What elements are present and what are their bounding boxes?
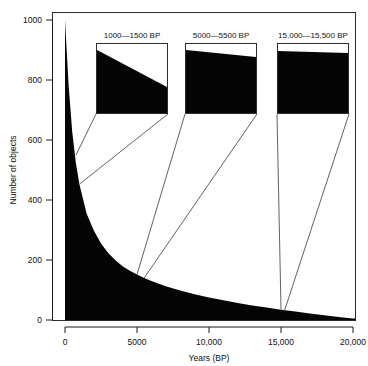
connector-inset-3-left <box>277 114 281 310</box>
y-ticklabel-1000: 1000 <box>23 15 42 25</box>
x-axis-title: Years (BP) <box>189 353 230 363</box>
x-ticklabel-20000: 20,000 <box>340 337 366 347</box>
connector-inset-1-right <box>79 114 168 184</box>
x-ticklabel-15000: 15,000 <box>268 337 294 347</box>
inset-2-fill <box>186 50 256 113</box>
inset-2: 5000—5500 BP <box>186 31 257 114</box>
inset-1-title: 1000—1500 BP <box>104 31 161 40</box>
inset-3-title: 15,000—15,500 BP <box>278 31 348 40</box>
y-axis-title: Number of objects <box>8 136 18 205</box>
x-ticklabel-5000: 5000 <box>128 337 147 347</box>
x-ticklabel-0: 0 <box>63 337 68 347</box>
inset-2-title: 5000—5500 BP <box>193 31 250 40</box>
inset-3: 15,000—15,500 BP <box>278 31 349 114</box>
chart-svg: 1000—1500 BP 5000—5500 BP 15,000—15,500 … <box>0 0 368 366</box>
y-ticklabel-200: 200 <box>28 255 42 265</box>
connector-inset-2-right <box>144 114 257 278</box>
connector-inset-1-left <box>76 114 96 155</box>
x-axis: 0 5000 10,000 15,000 20,000 Years (BP) <box>63 327 367 363</box>
y-axis: 1000 800 600 400 200 0 Number of objects <box>8 15 53 325</box>
y-ticklabel-400: 400 <box>28 195 42 205</box>
chart-figure: 1000—1500 BP 5000—5500 BP 15,000—15,500 … <box>0 0 368 366</box>
y-ticklabel-800: 800 <box>28 75 42 85</box>
inset-3-fill <box>278 51 348 113</box>
y-ticklabel-0: 0 <box>37 315 42 325</box>
inset-1: 1000—1500 BP <box>97 31 168 114</box>
x-ticklabel-10000: 10,000 <box>196 337 222 347</box>
y-ticklabel-600: 600 <box>28 135 42 145</box>
connector-inset-2-left <box>137 114 185 275</box>
connector-inset-3-right <box>285 114 349 310</box>
